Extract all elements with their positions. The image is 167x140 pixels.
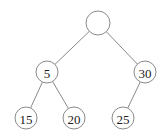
binary-tree-diagram: 5 30 15 20 25 [0, 0, 167, 140]
tree-node-5: 5 [36, 61, 58, 83]
tree-node-root [86, 11, 110, 35]
tree-node-20: 20 [63, 107, 85, 129]
node-label: 20 [68, 112, 81, 127]
node-label: 30 [139, 66, 152, 81]
tree-node-30: 30 [134, 61, 156, 83]
node-label: 25 [117, 112, 130, 127]
nodes: 5 30 15 20 25 [15, 11, 156, 129]
tree-node-15: 15 [15, 107, 37, 129]
node-label: 15 [20, 112, 33, 127]
tree-node-25: 25 [112, 107, 134, 129]
node-label: 5 [44, 66, 51, 81]
node-circle [86, 11, 110, 35]
